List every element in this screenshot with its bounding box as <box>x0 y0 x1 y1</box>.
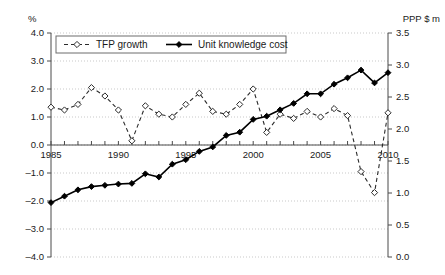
legend-label-0: TFP growth <box>96 39 148 50</box>
series-line-tfp-growth <box>51 88 388 193</box>
x-axis-tick-label: 2000 <box>243 149 264 160</box>
data-point-marker <box>142 103 148 109</box>
right-axis-tick-label: 3.5 <box>396 27 409 38</box>
left-axis: –4.0–3.0–2.0–1.00.01.02.03.04.0 <box>26 27 52 262</box>
data-point-marker <box>304 108 310 114</box>
dual-axis-line-chart: –4.0–3.0–2.0–1.00.01.02.03.04.0 0.00.51.… <box>0 0 445 275</box>
data-point-marker <box>250 86 256 92</box>
data-point-marker <box>237 101 243 107</box>
data-point-marker <box>116 181 122 187</box>
right-axis: 0.00.51.01.52.02.53.03.5 <box>388 27 409 262</box>
left-axis-tick-label: 2.0 <box>31 83 44 94</box>
data-point-marker <box>75 187 81 193</box>
data-point-marker <box>183 101 189 107</box>
data-point-marker <box>371 190 377 196</box>
data-point-marker <box>318 114 324 120</box>
data-point-marker <box>264 113 270 119</box>
right-axis-tick-label: 2.5 <box>396 91 409 102</box>
data-point-marker <box>102 93 108 99</box>
data-point-marker <box>48 104 54 110</box>
data-point-marker <box>88 85 94 91</box>
left-axis-tick-label: –4.0 <box>26 251 45 262</box>
right-axis-tick-label: 2.0 <box>396 123 409 134</box>
right-axis-tick-label: 0.0 <box>396 251 409 262</box>
data-point-marker <box>385 110 391 116</box>
data-point-marker <box>331 106 337 112</box>
legend-label-1: Unit knowledge cost <box>198 39 288 50</box>
chart-container: –4.0–3.0–2.0–1.00.01.02.03.04.0 0.00.51.… <box>0 0 445 275</box>
left-axis-tick-label: 3.0 <box>31 55 44 66</box>
x-axis-tick-label: 2005 <box>310 149 331 160</box>
left-axis-tick-label: 4.0 <box>31 27 44 38</box>
left-axis-tick-label: –1.0 <box>26 167 45 178</box>
data-point-marker <box>129 138 135 144</box>
data-point-marker <box>89 184 95 190</box>
right-axis-tick-label: 3.0 <box>396 59 409 70</box>
data-point-marker <box>358 169 364 175</box>
right-axis-tick-label: 1.0 <box>396 187 409 198</box>
x-axis-tick-label: 1990 <box>108 149 129 160</box>
x-axis: 198519901995200020052010 <box>40 141 398 160</box>
x-axis-tick-label: 1985 <box>40 149 61 160</box>
data-point-marker <box>277 107 283 113</box>
data-point-marker <box>62 193 68 199</box>
right-axis-unit-label: PPP $ m <box>403 13 440 24</box>
data-point-marker <box>61 107 67 113</box>
right-axis-tick-label: 0.5 <box>396 219 409 230</box>
legend: TFP growthUnit knowledge cost <box>56 36 288 53</box>
left-axis-tick-label: –3.0 <box>26 223 45 234</box>
series-group <box>48 67 391 205</box>
data-point-marker <box>156 111 162 117</box>
left-axis-unit-label: % <box>28 13 37 24</box>
data-point-marker <box>291 115 297 121</box>
data-point-marker <box>344 113 350 119</box>
data-point-marker <box>115 107 121 113</box>
data-point-marker <box>102 182 108 188</box>
left-axis-tick-label: –2.0 <box>26 195 45 206</box>
series-line-unit-knowledge-cost <box>51 70 388 202</box>
left-axis-tick-label: 1.0 <box>31 111 44 122</box>
